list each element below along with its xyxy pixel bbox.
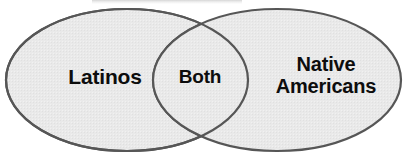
latinos-label: Latinos	[30, 66, 180, 89]
venn-diagram: Latinos Both Native Americans	[0, 0, 408, 160]
native-americans-label: Native Americans	[252, 54, 400, 97]
both-label: Both	[160, 67, 240, 88]
